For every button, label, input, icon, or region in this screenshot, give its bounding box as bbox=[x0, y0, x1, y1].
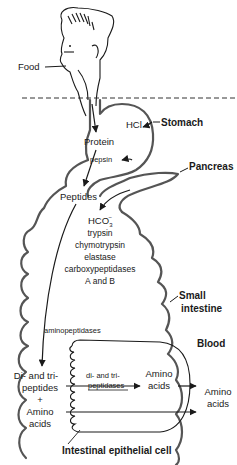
label-elastase: elastase bbox=[84, 252, 116, 262]
label-stomach: Stomach bbox=[161, 117, 203, 128]
label-hcl: HCl bbox=[126, 119, 142, 130]
label-amino-1: Amino bbox=[27, 406, 54, 417]
label-a-and-b: A and B bbox=[85, 276, 115, 286]
protein-digestion-diagram: Food HCl Stomach Protein pepsin Pancreas… bbox=[0, 0, 237, 465]
peptides-to-dipeptides-arrow bbox=[42, 204, 76, 366]
label-peptides: Peptides bbox=[60, 191, 97, 202]
pancreatic-secretion-arrow bbox=[100, 190, 130, 210]
label-cell-amino-2: acids bbox=[148, 380, 170, 391]
pancreatic-enzymes: HCO3− trypsin chymotrypsin elastase carb… bbox=[65, 214, 136, 286]
epithelial-pointer-line bbox=[68, 430, 80, 444]
label-carboxypeptidases: carboxypeptidases bbox=[65, 264, 136, 274]
label-di-tri-2: peptides bbox=[22, 382, 58, 393]
label-chymotrypsin: chymotrypsin bbox=[75, 240, 125, 250]
small-intestine-pointer-line bbox=[170, 296, 178, 302]
label-aminopeptidases: aminopeptidases bbox=[44, 326, 101, 335]
food-to-protein-arrow bbox=[92, 104, 96, 132]
pancreas-pointer-line bbox=[180, 168, 188, 172]
esophagus-left-wall bbox=[86, 100, 90, 160]
label-intestine: intestine bbox=[181, 303, 223, 314]
label-cell-amino-1: Amino bbox=[146, 368, 173, 379]
label-pancreas: Pancreas bbox=[189, 161, 234, 172]
label-hco3: HCO3− bbox=[88, 214, 113, 228]
microvilli-border bbox=[70, 346, 78, 432]
label-small: Small bbox=[179, 290, 206, 301]
esophagus-inner bbox=[78, 70, 88, 100]
label-blood: Blood bbox=[197, 338, 225, 349]
label-epithelial-cell: Intestinal epithelial cell bbox=[62, 445, 172, 456]
pancreas-outline bbox=[100, 173, 178, 212]
food-pointer-line bbox=[45, 66, 66, 67]
label-trypsin: trypsin bbox=[87, 228, 112, 238]
label-food: Food bbox=[18, 61, 40, 72]
label-blood-amino-1: Amino bbox=[205, 386, 232, 397]
pepsin-arrow bbox=[122, 159, 132, 160]
label-protein: Protein bbox=[84, 136, 114, 147]
label-cell-enzyme-1: di- and tri- bbox=[86, 371, 120, 380]
head-illustration bbox=[61, 8, 114, 116]
diagram-canvas: Food HCl Stomach Protein pepsin Pancreas… bbox=[0, 0, 237, 465]
label-blood-amino-2: acids bbox=[207, 398, 229, 409]
label-amino-2: acids bbox=[29, 418, 51, 429]
label-plus: + bbox=[37, 394, 43, 405]
intestine-right-wall bbox=[122, 212, 182, 465]
label-di-tri-1: Di- and tri- bbox=[14, 370, 58, 381]
